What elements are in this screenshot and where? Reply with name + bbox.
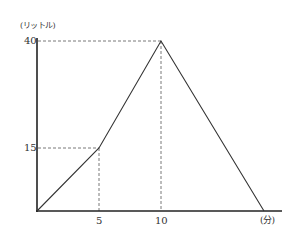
y-axis-unit-label: (リットル) (20, 22, 55, 30)
y-tick-40: 40 (24, 36, 37, 46)
x-axis-unit-label: (分) (260, 216, 275, 225)
x-tick-10: 10 (155, 216, 168, 226)
guide-lines (38, 41, 161, 211)
x-tick-5: 5 (96, 216, 102, 226)
data-line (37, 41, 264, 211)
chart-canvas (0, 0, 298, 241)
y-tick-15: 15 (24, 143, 37, 153)
